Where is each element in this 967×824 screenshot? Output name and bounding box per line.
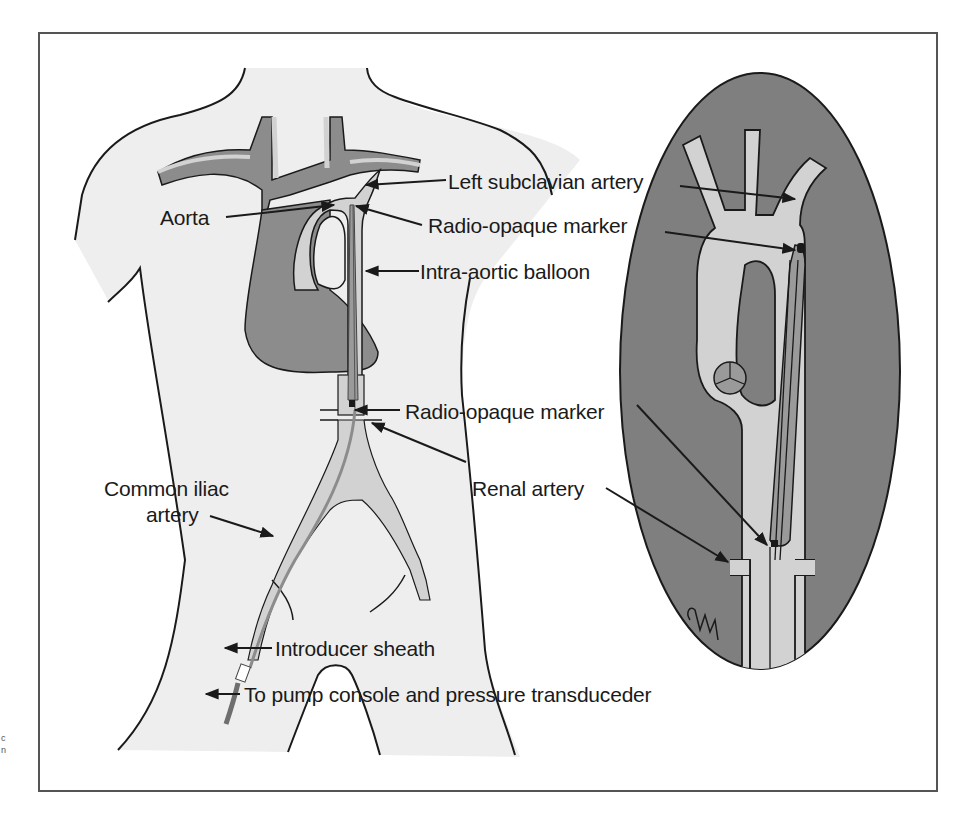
label-to-pump-console: To pump console and pressure transducede… <box>244 684 651 705</box>
label-introducer-sheath: Introducer sheath <box>275 638 435 659</box>
label-intra-aortic-balloon: Intra-aortic balloon <box>420 261 590 282</box>
label-aorta: Aorta <box>160 207 209 228</box>
label-common-iliac-artery-line1: Common iliac <box>104 478 229 499</box>
margin-fragment-2: n <box>1 745 6 755</box>
label-renal-artery: Renal artery <box>472 478 584 499</box>
label-left-subclavian-artery: Left subclavian artery <box>448 171 643 192</box>
label-common-iliac-artery-line2: artery <box>146 504 198 525</box>
inset-close-up <box>620 73 900 720</box>
label-radio-opaque-marker-bottom: Radio-opaque marker <box>405 401 604 422</box>
margin-fragment-1: c <box>1 733 6 743</box>
label-radio-opaque-marker-top: Radio-opaque marker <box>428 215 627 236</box>
